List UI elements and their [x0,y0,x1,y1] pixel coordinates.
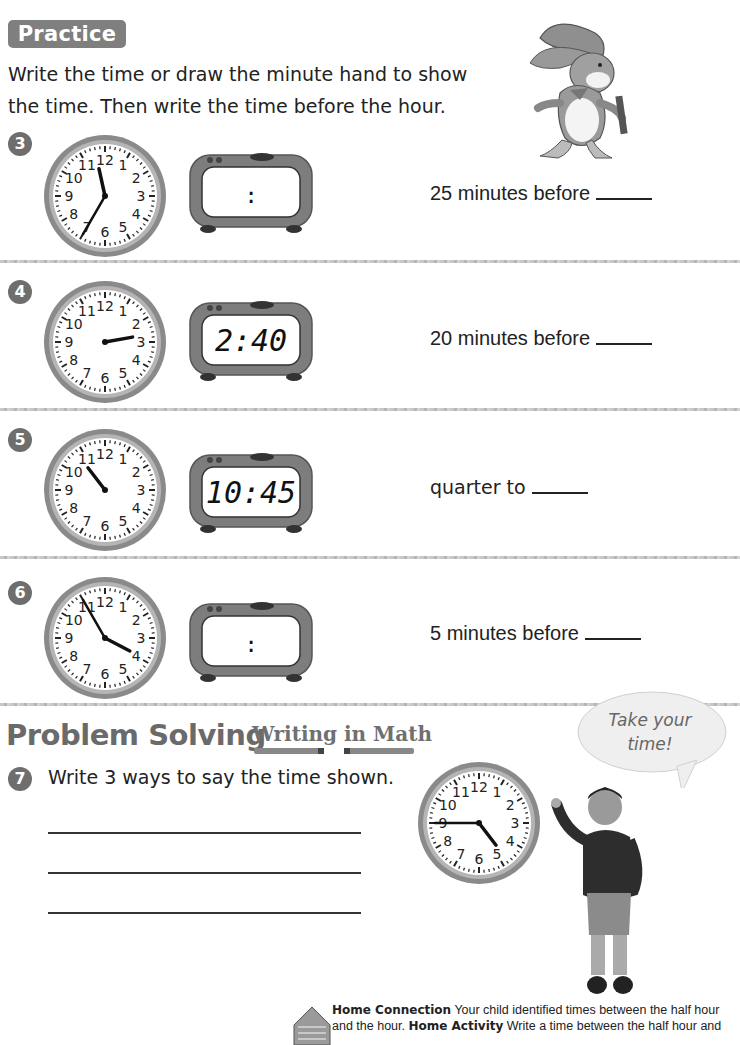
clock-numeral: 11 [78,451,96,467]
clock-numeral: 1 [119,303,128,319]
clock-numeral: 8 [69,206,78,222]
problem-number-badge: 5 [8,428,32,452]
clock-numeral: 7 [83,513,92,529]
clock-numeral: 1 [119,157,128,173]
digital-clock-foot [286,373,302,381]
section-divider [0,556,740,559]
clock-numeral: 3 [137,482,146,498]
clock-tick [489,774,490,777]
clock-numeral: 1 [119,451,128,467]
digital-clock: 2:40 [188,293,314,383]
clock-tick [56,186,59,187]
home-connection-text: Home Connection Your child identified ti… [332,1002,740,1034]
digital-clock-button [207,305,213,311]
clock-numeral: 2 [506,797,515,813]
clock-numeral: 12 [96,594,114,610]
clock-tick [151,480,154,481]
clock-tick [56,332,59,333]
digital-clock-foot [200,674,216,682]
clock-tick [151,648,154,649]
digital-clock[interactable]: : [188,145,314,235]
question-text: Write 3 ways to say the time shown. [48,766,394,788]
clock-numeral: 12 [96,298,114,314]
clock-numeral: 11 [78,157,96,173]
clock-tick [56,206,59,207]
answer-blank[interactable] [596,327,652,345]
clock-numeral: 11 [452,784,470,800]
speech-bubble-text: Take your time! [592,708,708,756]
digital-clock-foot [286,225,302,233]
clock-numeral: 6 [475,851,484,867]
clock-tick [95,388,96,391]
clock-numeral: 4 [132,206,141,222]
digital-clock-button [207,606,213,612]
answer-prompt: 25 minutes before [430,182,652,205]
digital-clock: 10:45 [188,445,314,535]
clock-numeral: 6 [101,666,110,682]
clock-center-pin [476,820,482,826]
home-connection-label: Home Connection [332,1003,451,1017]
practice-section-badge: Practice [8,20,126,48]
digital-clock-display: : [244,183,257,208]
clock-numeral: 2 [132,316,141,332]
problem-number-badge: 6 [8,581,32,605]
analog-clock-question-7: 121234567891011 [416,760,542,886]
clock-numeral: 9 [65,334,74,350]
clock-numeral: 3 [137,630,146,646]
clock-numeral: 11 [78,303,96,319]
clock-numeral: 4 [132,352,141,368]
clock-tick [95,589,96,592]
clock-center-pin [102,193,108,199]
digital-clock-foot [200,525,216,533]
problem-number-badge: 4 [8,280,32,304]
digital-clock-button [250,453,274,461]
clock-tick [95,684,96,687]
answer-blank[interactable] [596,182,652,200]
clock-tick [151,332,154,333]
digital-clock-button [250,153,274,161]
problem-number-badge: 7 [8,767,32,791]
clock-numeral: 8 [69,648,78,664]
answer-blank[interactable] [585,622,641,640]
clock-numeral: 5 [119,365,128,381]
digital-clock-button [216,305,222,311]
clock-tick [151,352,154,353]
answer-prompt: 20 minutes before [430,327,652,350]
answer-line-1[interactable] [48,832,361,834]
writing-in-math-label: Writing in Math [252,722,432,746]
problem-number-badge: 3 [8,132,32,156]
section-divider [0,260,740,263]
clock-center-pin [102,487,108,493]
bunny-illustration [500,8,650,163]
analog-clock[interactable]: 121234567891011 [42,575,168,701]
digital-clock-display: 10:45 [206,475,296,510]
digital-clock-button [216,457,222,463]
clock-tick [115,536,116,539]
clock-tick [95,536,96,539]
answer-prompt: 5 minutes before [430,622,641,645]
clock-tick [115,441,116,444]
clock-tick [95,293,96,296]
clock-tick [95,441,96,444]
clock-numeral: 9 [65,482,74,498]
clock-numeral: 9 [65,630,74,646]
section-divider [0,408,740,411]
answer-blank[interactable] [532,476,588,494]
clock-numeral: 3 [511,815,520,831]
clock-center-pin [102,339,108,345]
answer-prompt: quarter to [430,476,588,498]
clock-tick [115,242,116,245]
clock-numeral: 8 [69,352,78,368]
analog-clock[interactable]: 121234567891011 [42,133,168,259]
home-activity-label: Home Activity [408,1019,503,1033]
clock-numeral: 8 [443,833,452,849]
clock-tick [115,147,116,150]
analog-clock[interactable]: 121234567891011 [42,427,168,553]
clock-numeral: 12 [470,779,488,795]
answer-line-3[interactable] [48,912,361,914]
clock-tick [56,648,59,649]
answer-line-2[interactable] [48,872,361,874]
digital-clock[interactable]: : [188,594,314,684]
analog-clock[interactable]: 121234567891011 [42,279,168,405]
clock-numeral: 1 [119,599,128,615]
